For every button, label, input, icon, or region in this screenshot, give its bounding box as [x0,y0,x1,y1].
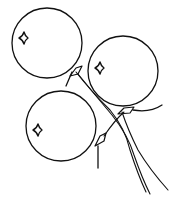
balloons-drawing [0,0,180,205]
balloon-strings [76,72,168,194]
balloon-bottom-left [26,91,106,168]
balloon-top-left [12,8,82,86]
balloon-right [88,36,162,114]
